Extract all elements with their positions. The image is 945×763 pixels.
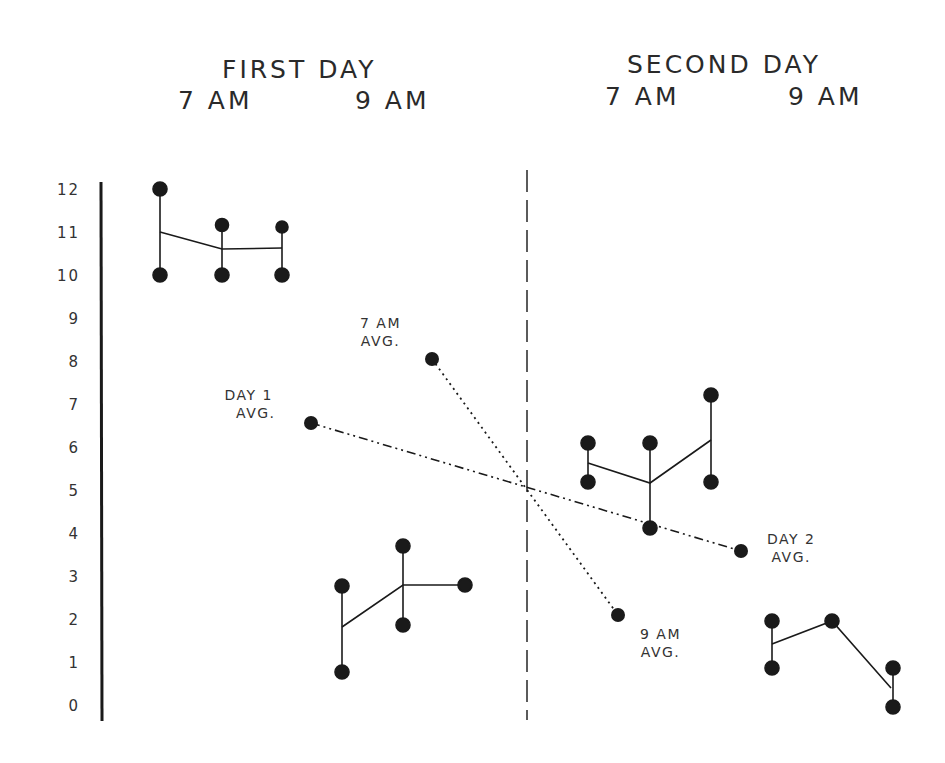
data-point	[458, 578, 472, 592]
data-point	[216, 219, 229, 232]
plot-area	[0, 0, 945, 763]
am7-average-label-line1: 7 AM	[360, 314, 401, 332]
am9-average-label-line1: 9 AM	[640, 625, 681, 643]
day-average-dashdot-line	[311, 423, 741, 551]
group-day2-7am	[581, 388, 718, 535]
data-point	[581, 436, 595, 450]
data-point	[765, 661, 779, 675]
group-day1-7am	[153, 182, 289, 282]
am9-average-point	[611, 608, 625, 622]
data-point	[704, 475, 718, 489]
data-point	[276, 221, 288, 233]
data-point	[335, 665, 349, 679]
data-point	[396, 539, 410, 553]
data-point	[153, 182, 167, 196]
data-point	[643, 521, 657, 535]
day1-average-point	[304, 416, 318, 430]
data-point	[581, 475, 595, 489]
am7-average-label-line2: AVG.	[360, 332, 401, 350]
data-point	[275, 268, 289, 282]
day2-average-label-line2: AVG.	[767, 548, 815, 566]
am7-average-point	[425, 352, 439, 366]
data-point	[335, 579, 349, 593]
day2-average-label: DAY 2 AVG.	[767, 530, 815, 566]
data-point	[153, 268, 167, 282]
data-point	[765, 614, 779, 628]
day2-average-label-line1: DAY 2	[767, 530, 815, 548]
am9-average-label: 9 AM AVG.	[640, 625, 681, 661]
data-point	[886, 661, 900, 675]
day1-average-label-line1: DAY 1	[222, 386, 276, 404]
day1-average-label: DAY 1 AVG.	[222, 386, 276, 422]
data-point	[215, 268, 229, 282]
data-point	[704, 388, 718, 402]
y-axis-line	[101, 182, 102, 721]
group-day1-9am	[335, 539, 472, 679]
data-point	[886, 700, 900, 714]
am9-average-label-line2: AVG.	[640, 643, 681, 661]
data-point	[825, 614, 839, 628]
group-day2-9am	[765, 614, 900, 714]
day1-average-label-line2: AVG.	[222, 404, 276, 422]
am7-average-label: 7 AM AVG.	[360, 314, 401, 350]
data-point	[643, 436, 657, 450]
data-point	[396, 618, 410, 632]
day2-average-point	[734, 544, 748, 558]
